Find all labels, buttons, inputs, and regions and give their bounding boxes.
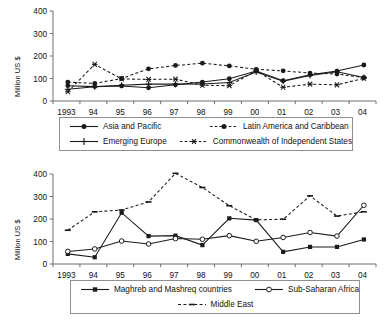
x-tick-label: 98 bbox=[196, 108, 206, 117]
chart-panel-top: Million US $ 010020030040019939495969798… bbox=[0, 0, 392, 160]
legend-top: Asia and Pacific Latin America and Carib… bbox=[59, 117, 353, 151]
data-point-marker bbox=[146, 234, 150, 238]
y-tick-label: 200 bbox=[33, 215, 47, 224]
legend-label-middle-east: Middle East bbox=[211, 300, 254, 309]
x-tick-label: 03 bbox=[331, 271, 341, 280]
legend-key-dashed-dash-icon bbox=[177, 300, 207, 309]
data-point-marker bbox=[308, 245, 312, 249]
legend-item-commonwealth-of-independent-states: Commonwealth of Independent States bbox=[179, 137, 352, 146]
y-tick-label: 300 bbox=[33, 30, 47, 39]
x-tick-label: 98 bbox=[196, 271, 206, 280]
legend-label-maghreb-and-mashreq-countries: Maghreb and Mashreq countries bbox=[114, 285, 232, 294]
plot-area-top: 010020030040019939495969798990001020304 bbox=[0, 0, 392, 118]
x-tick-label: 99 bbox=[223, 271, 233, 280]
data-point-marker bbox=[308, 230, 313, 235]
data-point-marker bbox=[227, 216, 231, 220]
y-tick-label: 100 bbox=[33, 238, 47, 247]
data-point-marker bbox=[120, 211, 124, 215]
x-tick-label: 1993 bbox=[57, 271, 76, 280]
data-point-marker bbox=[146, 242, 151, 247]
data-point-marker bbox=[227, 64, 232, 69]
data-point-marker bbox=[92, 247, 97, 252]
series-line bbox=[68, 213, 364, 258]
y-tick-label: 0 bbox=[42, 97, 47, 106]
x-tick-label: 04 bbox=[358, 108, 368, 117]
series-line bbox=[68, 64, 364, 91]
data-point-marker bbox=[200, 243, 204, 247]
legend-label-asia-and-pacific: Asia and Pacific bbox=[103, 122, 161, 131]
data-point-marker bbox=[254, 239, 259, 244]
legend-label-emerging-europe: Emerging Europe bbox=[103, 137, 167, 146]
legend-label-sub-saharan-africa: Sub-Saharan Africa bbox=[288, 285, 359, 294]
legend-key-dashed-filled-circle-icon bbox=[209, 122, 239, 131]
data-point-marker bbox=[200, 61, 205, 66]
x-tick-label: 00 bbox=[250, 271, 260, 280]
plot-area-bottom: 010020030040019939495969798990001020304 bbox=[0, 163, 392, 281]
y-tick-label: 400 bbox=[33, 170, 47, 179]
data-point-marker bbox=[227, 233, 232, 238]
legend-item-middle-east: Middle East bbox=[177, 300, 254, 309]
legend-key-solid-open-circle-icon bbox=[254, 285, 284, 294]
x-tick-label: 96 bbox=[143, 108, 153, 117]
data-point-marker bbox=[335, 245, 339, 249]
x-tick-label: 97 bbox=[170, 271, 180, 280]
chart-panel-bottom: Million US $ 010020030040019939495969798… bbox=[0, 163, 392, 325]
x-tick-label: 00 bbox=[250, 108, 260, 117]
data-point-marker bbox=[281, 68, 286, 73]
data-point-marker bbox=[66, 249, 71, 254]
legend-label-latin-america-and-caribbean: Latin America and Caribbean bbox=[243, 122, 349, 131]
x-tick-label: 96 bbox=[143, 271, 153, 280]
legend-key-solid-filled-square-icon bbox=[80, 285, 110, 294]
data-point-marker bbox=[362, 237, 366, 241]
x-tick-label: 01 bbox=[277, 108, 287, 117]
x-tick-label: 99 bbox=[223, 108, 233, 117]
data-point-marker bbox=[173, 63, 178, 68]
data-point-marker bbox=[281, 250, 285, 254]
legend-key-solid-plus-icon bbox=[69, 137, 99, 146]
y-tick-label: 100 bbox=[33, 75, 47, 84]
legend-item-maghreb-and-mashreq-countries: Maghreb and Mashreq countries bbox=[71, 285, 254, 294]
y-tick-label: 300 bbox=[33, 193, 47, 202]
x-tick-label: 04 bbox=[358, 271, 368, 280]
y-tick-label: 400 bbox=[33, 7, 47, 16]
x-tick-label: 02 bbox=[304, 108, 314, 117]
x-tick-label: 95 bbox=[116, 271, 126, 280]
x-tick-label: 97 bbox=[170, 108, 180, 117]
x-tick-label: 03 bbox=[331, 108, 341, 117]
data-point-marker bbox=[93, 255, 97, 259]
y-axis-label-top: Million US $ bbox=[13, 56, 22, 97]
data-point-marker bbox=[200, 237, 205, 242]
legend-key-dashed-star-icon bbox=[179, 137, 209, 146]
x-tick-label: 1993 bbox=[57, 108, 76, 117]
y-axis-label-bottom: Million US $ bbox=[13, 219, 22, 260]
x-tick-label: 02 bbox=[304, 271, 314, 280]
data-point-marker bbox=[361, 63, 366, 68]
x-tick-label: 94 bbox=[89, 108, 99, 117]
x-tick-label: 95 bbox=[116, 108, 126, 117]
x-tick-label: 01 bbox=[277, 271, 287, 280]
data-point-marker bbox=[335, 234, 340, 239]
legend-label-commonwealth-of-independent-states: Commonwealth of Independent States bbox=[213, 137, 352, 146]
y-tick-label: 200 bbox=[33, 52, 47, 61]
data-point-marker bbox=[281, 235, 286, 240]
series-line bbox=[68, 173, 364, 230]
data-point-marker bbox=[119, 239, 124, 244]
data-point-marker bbox=[65, 80, 70, 85]
data-point-marker bbox=[362, 203, 367, 208]
two-panel-line-chart-figure: Million US $ 010020030040019939495969798… bbox=[0, 0, 392, 325]
data-point-marker bbox=[146, 66, 151, 71]
legend-key-solid-filled-circle-icon bbox=[69, 122, 99, 131]
legend-item-asia-and-pacific: Asia and Pacific bbox=[60, 122, 209, 131]
legend-item-sub-saharan-africa: Sub-Saharan Africa bbox=[254, 285, 359, 294]
data-point-marker bbox=[173, 236, 178, 241]
legend-item-emerging-europe: Emerging Europe bbox=[60, 137, 179, 146]
legend-item-latin-america-and-caribbean: Latin America and Caribbean bbox=[209, 122, 349, 131]
y-tick-label: 0 bbox=[42, 260, 47, 269]
legend-bottom: Maghreb and Mashreq countries Sub-Sahara… bbox=[70, 280, 360, 314]
x-tick-label: 94 bbox=[89, 271, 99, 280]
